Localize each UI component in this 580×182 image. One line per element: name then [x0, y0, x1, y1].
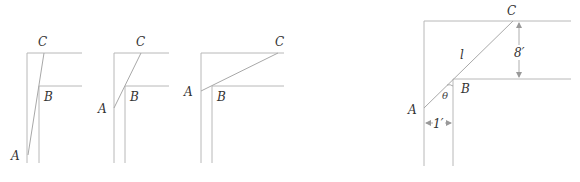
theta-arc [447, 85, 453, 86]
label-b: B [216, 90, 226, 104]
panel-2: C B A [97, 35, 169, 163]
label-b: B [129, 90, 139, 104]
ladder-line [28, 53, 44, 155]
label-a: A [407, 103, 417, 117]
label-b: B [43, 90, 53, 104]
label-c: C [38, 35, 47, 49]
dim-1-label: 1′ [433, 117, 444, 131]
label-c: C [136, 35, 145, 49]
label-c: C [507, 4, 516, 18]
label-a: A [183, 85, 193, 99]
label-b: B [460, 82, 470, 96]
inner-wall [453, 79, 571, 166]
label-a: A [10, 149, 20, 163]
dim-8-label: 8′ [514, 46, 525, 60]
label-c: C [275, 35, 284, 49]
outer-wall [201, 53, 284, 163]
panel-3: C B A [183, 35, 284, 163]
label-a: A [97, 102, 107, 116]
outer-wall [114, 53, 169, 163]
ladder-corner-diagram: C B A C B A C B A C B A l θ 8′ [0, 0, 580, 182]
ladder-line [201, 53, 278, 91]
panel-1: C B A [10, 35, 82, 163]
panel-4: C B A l θ 8′ 1′ [407, 4, 571, 166]
label-theta: θ [442, 90, 448, 101]
label-length: l [460, 48, 464, 62]
